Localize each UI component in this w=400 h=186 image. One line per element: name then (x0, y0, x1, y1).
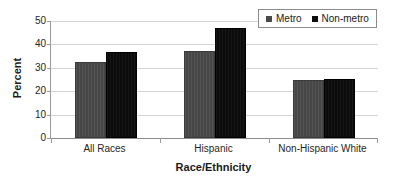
bar-non-metro-non-hispanic-white (324, 79, 355, 138)
y-axis-tick-label: 0 (26, 133, 46, 143)
x-axis-tick-labels: All RacesHispanicNon-Hispanic White (50, 143, 377, 157)
y-axis-tick-mark (47, 115, 51, 116)
y-axis-tick-label: 30 (26, 63, 46, 73)
legend-label: Metro (276, 13, 302, 24)
bar-non-metro-all-races (106, 52, 137, 138)
nonmetro-swatch (312, 16, 318, 22)
bar-metro-non-hispanic-white (293, 80, 324, 138)
metro-swatch (266, 16, 272, 22)
x-axis-title: Race/Ethnicity (50, 161, 377, 174)
x-axis-tick-mark (377, 138, 378, 143)
y-axis-tick-label: 50 (26, 16, 46, 26)
y-axis-tick-label: 10 (26, 110, 46, 120)
plot-area (50, 21, 378, 138)
gridline (51, 138, 378, 139)
x-axis-tick-label: All Races (50, 143, 159, 155)
y-axis-tick-mark (47, 21, 51, 22)
x-axis-tick-label: Hispanic (159, 143, 268, 155)
legend-entry: Non-metro (312, 13, 369, 24)
x-axis-tick-label: Non-Hispanic White (268, 143, 377, 155)
y-axis-tick-mark (47, 68, 51, 69)
y-axis-tick-labels: 01020304050 (26, 0, 46, 186)
legend-label: Non-metro (322, 13, 369, 24)
y-axis-tick-label: 20 (26, 86, 46, 96)
legend-entry: Metro (266, 13, 302, 24)
bar-non-metro-hispanic (215, 28, 246, 138)
y-axis-title: Percent (10, 18, 24, 138)
bar-metro-hispanic (184, 51, 215, 138)
chart-legend: MetroNon-metro (258, 9, 377, 28)
bar-metro-all-races (75, 62, 106, 138)
y-axis-tick-mark (47, 91, 51, 92)
y-axis-tick-mark (47, 44, 51, 45)
y-axis-tick-label: 40 (26, 39, 46, 49)
bar-chart-figure: Percent 01020304050 All RacesHispanicNon… (0, 0, 400, 186)
